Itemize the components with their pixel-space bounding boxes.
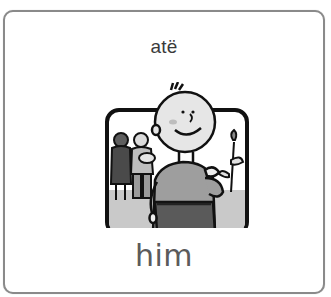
boy-pointing-at-himself-illustration-icon	[101, 82, 249, 228]
native-word-label: atë	[5, 36, 323, 58]
english-word-label: him	[5, 238, 323, 273]
vocabulary-card: atë	[3, 10, 325, 294]
